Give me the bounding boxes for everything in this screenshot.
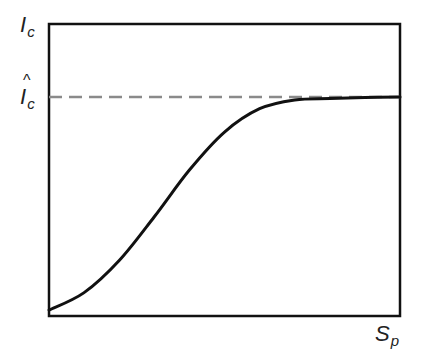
y-axis-label: Ic	[20, 14, 35, 36]
data-curve	[49, 97, 400, 310]
chart-canvas	[0, 0, 422, 359]
x-axis-label: Sp	[375, 323, 399, 345]
plot-frame	[49, 24, 400, 316]
reference-line-label: ^Ic	[20, 86, 35, 108]
